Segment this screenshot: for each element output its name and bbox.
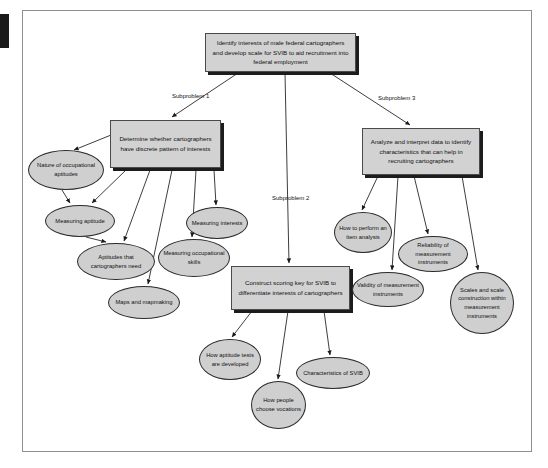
node-label: Maps and mapmaking (115, 298, 172, 307)
subproblem-3-box: Analyze and interpret data to identify c… (362, 128, 480, 175)
link-measapt-to-aptneed (86, 237, 106, 242)
node-label: Measuring occupational skills (161, 249, 227, 266)
root-problem-label: Identify interests of male federal carto… (211, 38, 350, 67)
node-maps-and-mapmaking: Maps and mapmaking (108, 286, 180, 319)
link-right-to-itemanal (362, 176, 378, 210)
node-label: How aptitude tests are developed (202, 351, 258, 368)
link-left-to-measint (214, 170, 216, 205)
subproblem-3-label: Analyze and interpret data to identify c… (368, 137, 474, 166)
diagram-page: Identify interests of male federal carto… (0, 0, 548, 468)
subproblem-1-label: Determine whether cartographers have dis… (116, 134, 215, 153)
link-root-to-mid (285, 73, 289, 263)
subproblem-2-box: Construct scoring key for SVIB to differ… (231, 266, 350, 310)
node-how-to-perform-item-analysis: How to perform an item analysis (334, 212, 392, 253)
link-left-to-aptneed (124, 170, 150, 241)
subproblem-2-label: Construct scoring key for SVIB to differ… (237, 278, 344, 297)
link-mid-to-vocations (278, 311, 288, 379)
link-mid-to-aptdev (232, 311, 252, 337)
node-label: How to perform an item analysis (337, 224, 389, 241)
node-nature-of-occupational-aptitudes: Nature of occupational aptitudes (28, 150, 104, 190)
node-measuring-occupational-skills: Measuring occupational skills (158, 239, 230, 277)
link-right-to-reliab (414, 176, 428, 234)
node-scales-and-scale-construction: Scales and scale construction within mea… (450, 272, 514, 334)
node-label: Aptitudes that cartographers need (80, 253, 152, 270)
node-label: Characteristics of SVIB (303, 369, 363, 378)
subproblem-1-box: Determine whether cartographers have dis… (110, 120, 221, 168)
edge-label-subproblem-1: Subproblem 1 (172, 93, 209, 99)
node-aptitudes-cartographers-need: Aptitudes that cartographers need (77, 243, 155, 280)
node-validity-of-measurement-instruments: Validity of measurement instruments (352, 272, 424, 307)
node-label: Measuring interests (192, 219, 243, 228)
edge-label-subproblem-2: Subproblem 2 (272, 195, 309, 201)
node-label: Nature of occupational aptitudes (31, 161, 101, 178)
edge-label-subproblem-3: Subproblem 3 (378, 95, 415, 101)
link-nature-to-measapt (62, 190, 70, 203)
root-problem-box: Identify interests of male federal carto… (205, 33, 356, 72)
node-measuring-interests: Measuring interests (186, 207, 248, 239)
node-how-aptitude-tests-developed: How aptitude tests are developed (199, 339, 261, 380)
node-label: How people choose vocations (254, 396, 303, 413)
link-right-to-valid (392, 176, 398, 270)
node-label: Measuring aptitude (55, 217, 104, 226)
node-measuring-aptitude: Measuring aptitude (45, 205, 115, 237)
node-label: Reliability of measurement instruments (401, 241, 465, 267)
node-characteristics-of-svib: Characteristics of SVIB (296, 357, 370, 389)
node-reliability-of-measurement-instruments: Reliability of measurement instruments (398, 236, 468, 272)
node-how-people-choose-vocations: How people choose vocations (251, 381, 306, 429)
node-label: Validity of measurement instruments (355, 281, 421, 298)
node-label: Scales and scale construction within mea… (453, 286, 511, 321)
link-mid-to-svib (324, 311, 330, 355)
